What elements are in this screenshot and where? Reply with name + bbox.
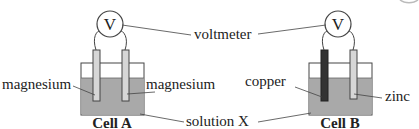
cell-b: V copper zinc Cell B bbox=[245, 11, 410, 129]
electrochemical-cells-diagram: V magnesium magnesium Cell A V copper zi… bbox=[0, 0, 419, 129]
cell-a-voltmeter-symbol: V bbox=[104, 15, 117, 34]
cell-a-solution bbox=[82, 78, 144, 115]
voltmeter-leader-b bbox=[258, 25, 326, 34]
cell-b-zinc-electrode bbox=[350, 50, 357, 99]
cell-b-solution bbox=[310, 78, 372, 115]
cell-b-zinc-label: zinc bbox=[385, 88, 410, 104]
cell-b-voltmeter-symbol: V bbox=[332, 15, 345, 34]
cell-a-title: Cell A bbox=[92, 115, 132, 129]
cell-b-copper-electrode bbox=[321, 50, 328, 101]
cell-b-title: Cell B bbox=[320, 115, 360, 129]
cell-a-right-electrode-label: magnesium bbox=[146, 76, 215, 92]
corner-logo-fragment bbox=[400, 0, 418, 3]
cell-a-right-electrode bbox=[122, 50, 129, 101]
solution-label: solution X bbox=[186, 113, 249, 129]
cell-b-copper-label: copper bbox=[245, 73, 286, 89]
solution-leader-b bbox=[258, 113, 311, 122]
cell-a-left-electrode-label: magnesium bbox=[2, 76, 71, 92]
voltmeter-label: voltmeter bbox=[194, 26, 251, 42]
cell-a: V magnesium magnesium Cell A bbox=[2, 11, 215, 129]
solution-leader-a bbox=[140, 114, 184, 122]
cell-a-left-electrode bbox=[93, 50, 100, 101]
voltmeter-leader-a bbox=[122, 25, 191, 35]
